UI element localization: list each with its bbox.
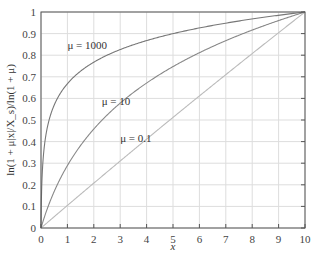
x-tick-label: 0 bbox=[38, 233, 44, 245]
x-tick-label: 3 bbox=[117, 233, 123, 245]
x-tick-label: 9 bbox=[276, 233, 282, 245]
y-tick-label: 0.2 bbox=[22, 179, 36, 191]
y-tick-label: 0.4 bbox=[22, 136, 36, 148]
x-tick-label: 4 bbox=[144, 233, 150, 245]
x-tick-label: 7 bbox=[223, 233, 229, 245]
y-tick-label: 0.3 bbox=[22, 157, 36, 169]
chart: 01234567891000.10.20.30.40.50.60.70.80.9… bbox=[0, 0, 316, 262]
x-axis-label: x bbox=[170, 240, 176, 252]
y-tick-label: 1 bbox=[31, 6, 37, 18]
annotation-label: μ = 1000 bbox=[67, 39, 107, 51]
y-tick-label: 0.7 bbox=[22, 71, 36, 83]
y-tick-label: 0.8 bbox=[22, 49, 36, 61]
y-tick-label: 0.9 bbox=[22, 28, 36, 40]
y-tick-label: 0.1 bbox=[22, 200, 36, 212]
annotation-label: μ = 0.1 bbox=[120, 132, 151, 144]
y-tick-label: 0.5 bbox=[22, 114, 36, 126]
y-tick-label: 0 bbox=[31, 222, 37, 234]
y-axis-label: ln(1 + μ|x|/X_s)/ln(1 + μ) bbox=[4, 64, 17, 176]
annotation-label: μ = 10 bbox=[102, 95, 131, 107]
x-tick-label: 6 bbox=[197, 233, 203, 245]
x-tick-label: 8 bbox=[249, 233, 255, 245]
x-tick-label: 1 bbox=[65, 233, 71, 245]
y-tick-label: 0.6 bbox=[22, 92, 36, 104]
x-tick-label: 10 bbox=[300, 233, 312, 245]
x-tick-label: 2 bbox=[91, 233, 97, 245]
